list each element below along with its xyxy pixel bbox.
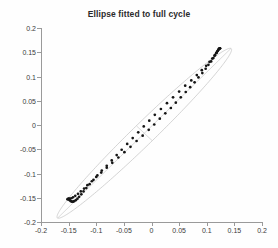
- y-tick-mark: [37, 28, 41, 29]
- data-point: [178, 90, 181, 93]
- data-point: [74, 194, 77, 197]
- y-tick-label: 0.05: [22, 97, 36, 104]
- data-point: [184, 91, 187, 94]
- y-tick-label: 0.2: [26, 25, 36, 32]
- data-point: [190, 79, 193, 82]
- y-tick-mark: [37, 101, 41, 102]
- data-point: [193, 81, 196, 84]
- data-point: [158, 117, 161, 120]
- y-tick-label: 0.15: [22, 49, 36, 56]
- data-point: [153, 123, 156, 126]
- data-point: [195, 74, 198, 77]
- data-point: [135, 140, 138, 143]
- x-tick-label: -0.15: [61, 227, 77, 234]
- data-point: [86, 184, 89, 187]
- y-tick-mark: [37, 174, 41, 175]
- y-tick-label: -0.15: [20, 194, 36, 201]
- data-point: [204, 67, 207, 70]
- x-tick-label: 0.05: [172, 227, 186, 234]
- x-tick-label: -0.1: [90, 227, 102, 234]
- x-tick-mark: [207, 222, 208, 226]
- data-point: [110, 159, 113, 162]
- y-tick-mark: [37, 125, 41, 126]
- y-tick-label: -0.2: [24, 219, 36, 226]
- x-tick-label: 0.15: [228, 227, 242, 234]
- data-point: [129, 145, 132, 148]
- y-tick-mark: [37, 77, 41, 78]
- data-point: [126, 143, 129, 146]
- data-point: [137, 131, 140, 134]
- figure-container: Ellipse fitted to full cycle 0.20.150.10…: [0, 0, 278, 248]
- data-point: [142, 125, 145, 128]
- data-point: [111, 161, 114, 164]
- data-point: [153, 113, 156, 116]
- data-point: [184, 84, 187, 87]
- data-point: [200, 69, 203, 72]
- x-tick-label: 0.1: [202, 227, 212, 234]
- y-tick-label: -0.1: [24, 170, 36, 177]
- x-tick-mark: [152, 222, 153, 226]
- data-point: [212, 57, 215, 60]
- data-point: [197, 76, 200, 79]
- data-point: [95, 176, 98, 179]
- x-tick-mark: [96, 222, 97, 226]
- data-point: [100, 171, 103, 174]
- data-point: [210, 60, 213, 63]
- data-point: [115, 154, 118, 157]
- x-tick-label: -0.05: [116, 227, 132, 234]
- data-point: [148, 119, 151, 122]
- data-point: [169, 107, 172, 110]
- x-tick-mark: [179, 222, 180, 226]
- data-point: [83, 187, 86, 190]
- data-point: [164, 112, 167, 115]
- data-point: [166, 102, 169, 105]
- x-tick-mark: [124, 222, 125, 226]
- data-point: [117, 156, 120, 159]
- data-point: [160, 108, 163, 111]
- y-tick-mark: [37, 198, 41, 199]
- x-tick-mark: [262, 222, 263, 226]
- x-tick-mark: [41, 222, 42, 226]
- data-point: [141, 134, 144, 137]
- data-points-group: [66, 47, 221, 203]
- data-point: [147, 129, 150, 132]
- x-tick-label: -0.2: [35, 227, 47, 234]
- data-point: [215, 51, 218, 54]
- y-tick-mark: [37, 52, 41, 53]
- plot-svg: [41, 28, 262, 222]
- chart-title: Ellipse fitted to full cycle: [0, 9, 278, 19]
- data-point: [66, 198, 69, 201]
- x-tick-mark: [69, 222, 70, 226]
- data-point: [105, 166, 108, 169]
- y-tick-label: 0.1: [26, 73, 36, 80]
- data-point: [123, 151, 126, 154]
- data-point: [201, 72, 204, 75]
- data-point: [80, 193, 83, 196]
- data-point: [189, 86, 192, 89]
- data-point: [78, 195, 81, 198]
- x-tick-label: 0: [150, 227, 154, 234]
- x-tick-mark: [234, 222, 235, 226]
- data-point: [120, 148, 123, 151]
- data-point: [131, 137, 134, 140]
- data-point: [174, 101, 177, 104]
- data-point: [79, 190, 82, 193]
- y-tick-mark: [37, 149, 41, 150]
- data-point: [77, 193, 80, 196]
- data-point: [90, 180, 93, 183]
- x-tick-label: 0.2: [257, 227, 267, 234]
- data-point: [179, 96, 182, 99]
- data-point: [172, 96, 175, 99]
- data-point: [214, 54, 217, 57]
- y-tick-label: -0.05: [20, 146, 36, 153]
- plot-area: 0.20.150.10.050-0.05-0.1-0.15-0.2 -0.2-0…: [41, 28, 262, 222]
- data-point: [82, 190, 85, 193]
- data-point: [207, 64, 210, 67]
- y-tick-label: 0: [32, 122, 36, 129]
